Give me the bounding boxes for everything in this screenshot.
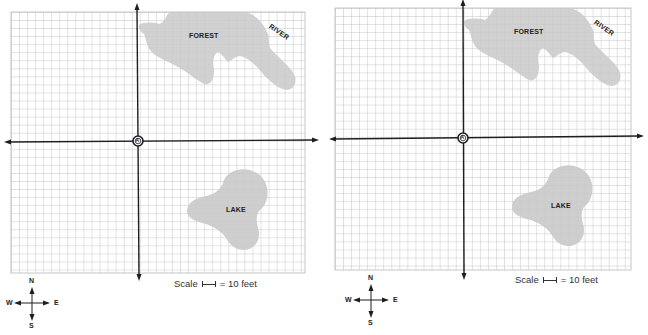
scale-suffix: = 10 feet [561, 274, 598, 285]
compass-east-label: E [54, 299, 59, 306]
scale-legend: Scale= 10 feet [174, 278, 257, 289]
y-axis-arrow-bottom [137, 274, 142, 281]
forest-label: FOREST [514, 28, 544, 35]
compass-west-label: W [6, 299, 13, 306]
compass-west-label: W [345, 296, 352, 303]
map-panel-right: FOREST RIVER LAKE A Scale= 10 feet N S W… [325, 0, 648, 331]
origin-marker-label: A [136, 137, 140, 143]
forest-label: FOREST [189, 32, 219, 39]
scale-legend: Scale= 10 feet [515, 274, 598, 285]
scale-prefix: Scale [515, 274, 539, 285]
compass: N S W E [6, 277, 50, 327]
scale-bar-icon [202, 281, 216, 287]
lake-label: LAKE [226, 206, 246, 213]
y-axis-arrow-top [135, 3, 140, 10]
x-axis-arrow-left [329, 137, 336, 142]
x-axis-arrow-right [637, 134, 644, 139]
compass-east-label: E [393, 296, 398, 303]
compass-north-label: N [368, 274, 373, 281]
scale-suffix: = 10 feet [220, 278, 257, 289]
compass: N S W E [345, 274, 389, 324]
origin-marker-label: A [461, 134, 465, 140]
scale-prefix: Scale [174, 278, 198, 289]
compass-south-label: S [29, 322, 34, 329]
scale-bar-icon [543, 277, 557, 283]
map-panel-left: FOREST RIVER LAKE A Scale= 10 feet N S W… [0, 0, 324, 335]
x-axis-arrow-left [4, 140, 11, 145]
lake-label: LAKE [551, 202, 571, 209]
x-axis-arrow-right [312, 138, 319, 143]
compass-south-label: S [368, 319, 373, 326]
y-axis-arrow-bottom [462, 273, 467, 280]
compass-north-label: N [29, 277, 34, 284]
y-axis-arrow-top [461, 0, 466, 6]
